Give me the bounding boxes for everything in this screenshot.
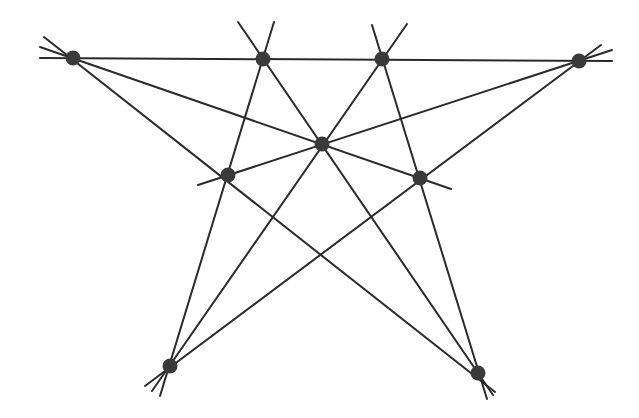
point-g [413, 171, 428, 186]
point-d [572, 54, 587, 69]
line-abcd [40, 58, 612, 61]
diagram-canvas [0, 0, 639, 418]
line-dgh [145, 45, 601, 386]
line-ceh [152, 24, 407, 391]
point-a [66, 51, 81, 66]
points-layer [66, 51, 587, 381]
point-e [315, 137, 330, 152]
lines-layer [40, 22, 612, 399]
line-cgi [372, 25, 487, 399]
point-h [163, 359, 178, 374]
line-afi [44, 37, 495, 392]
point-i [471, 366, 486, 381]
line-bfh [160, 22, 274, 396]
line-bei [238, 22, 493, 395]
point-f [221, 168, 236, 183]
point-b [256, 52, 271, 67]
point-c [375, 52, 390, 67]
